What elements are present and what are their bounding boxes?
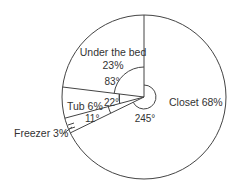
angle-label-closet: 245° — [135, 113, 156, 124]
angle-label-freezer: 11° — [85, 113, 99, 124]
angle-label-tub: 22° — [104, 97, 119, 108]
angle-label-bed: 83° — [104, 76, 119, 87]
label-bed-line1: Under the bed — [80, 46, 147, 58]
label-tub: Tub 6% — [67, 100, 103, 112]
pie-chart: Under the bed 23% 83° Tub 6% 22° 11° Fre… — [0, 0, 238, 193]
label-bed-line2: 23% — [102, 59, 123, 71]
label-closet: Closet 68% — [169, 96, 223, 108]
label-freezer: Freezer 3% — [14, 127, 68, 139]
